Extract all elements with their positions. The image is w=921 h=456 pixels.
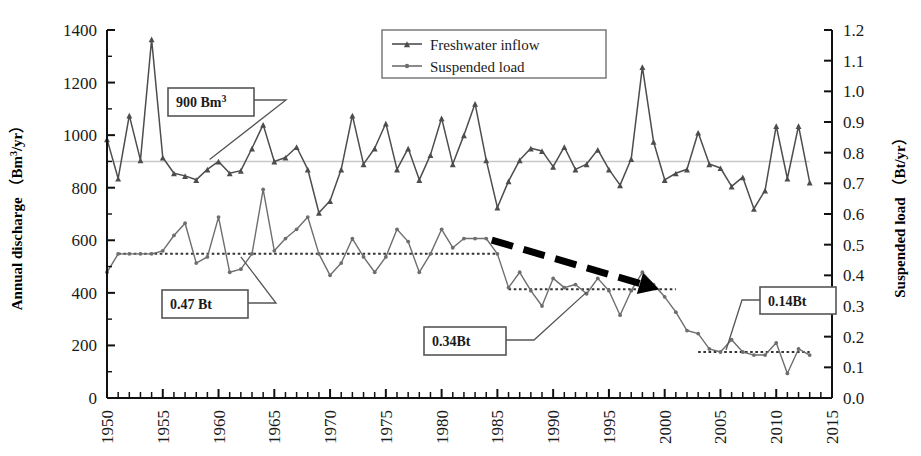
y2-axis-tick-label: 1.2 (843, 21, 864, 40)
y-axis-tick-label: 800 (72, 179, 98, 198)
legend-item-label: Suspended load (430, 59, 525, 75)
x-axis-tick-label: 2010 (767, 410, 786, 444)
data-point-marker (239, 267, 243, 271)
data-point-marker (183, 221, 187, 225)
callout-label: 0.14Bt (768, 294, 807, 309)
y-axis-tick-label: 1200 (63, 74, 97, 93)
right-axis-title: Suspended load （Bt/yr） (891, 130, 908, 298)
data-point-marker (663, 295, 667, 299)
y2-axis-tick-label: 0.8 (843, 144, 864, 163)
data-point-marker (373, 270, 377, 274)
data-point-marker (518, 270, 522, 274)
x-axis-tick-label: 2015 (823, 410, 842, 444)
data-point-marker (127, 252, 131, 256)
x-axis-tick-label: 2000 (656, 410, 675, 444)
x-axis-tick-label: 1980 (433, 410, 452, 444)
y2-axis-tick-label: 1.0 (843, 82, 864, 101)
data-point-marker (495, 252, 499, 256)
data-point-marker (306, 215, 310, 219)
data-point-marker (217, 215, 221, 219)
y-axis-tick-label: 400 (72, 284, 98, 303)
y-axis-tick-label: 200 (72, 336, 98, 355)
y2-axis-tick-label: 0.1 (843, 358, 864, 377)
data-point-marker (674, 310, 678, 314)
y-axis-tick-label: 1000 (63, 126, 97, 145)
data-point-marker (261, 188, 265, 192)
callout-label: 900 Bm3 (176, 93, 227, 110)
left-axis-title-tail: /yr） (8, 118, 25, 152)
data-point-marker (752, 353, 756, 357)
y2-axis-tick-label: 0.4 (843, 266, 865, 285)
data-point-marker (797, 347, 801, 351)
x-axis-tick-label: 1985 (488, 410, 507, 444)
data-point-marker (384, 255, 388, 259)
legend-item-label: Freshwater inflow (430, 37, 540, 53)
callout-label: 0.47 Bt (170, 297, 212, 312)
y2-axis-tick-label: 1.1 (843, 52, 864, 71)
data-point-marker (741, 350, 745, 354)
x-axis-tick-label: 1970 (321, 410, 340, 444)
data-point-marker (362, 255, 366, 259)
y2-axis-tick-label: 0.2 (843, 328, 864, 347)
data-point-marker (562, 286, 566, 290)
y2-axis-tick-label: 0.6 (843, 205, 864, 224)
data-point-marker (473, 237, 477, 241)
data-point-marker (529, 289, 533, 293)
data-point-marker (161, 249, 165, 253)
data-point-marker (596, 277, 600, 281)
y-axis-tick-label: 0 (89, 389, 98, 408)
data-point-marker (618, 313, 622, 317)
data-point-marker (707, 347, 711, 351)
data-point-marker (295, 227, 299, 231)
data-point-marker (116, 252, 120, 256)
data-point-marker (205, 255, 209, 259)
data-point-marker (317, 252, 321, 256)
data-point-marker (250, 252, 254, 256)
data-point-marker (607, 289, 611, 293)
data-point-marker (785, 372, 789, 376)
data-point-marker (440, 227, 444, 231)
y-axis-tick-label: 600 (72, 231, 98, 250)
data-point-marker (640, 270, 644, 274)
x-axis-tick-label: 1955 (154, 410, 173, 444)
data-point-marker (339, 261, 343, 265)
data-point-marker (272, 249, 276, 253)
x-axis-tick-label: 1975 (377, 410, 396, 444)
data-point-marker (429, 252, 433, 256)
data-point-marker (808, 353, 812, 357)
data-point-marker (629, 289, 633, 293)
data-point-marker (685, 329, 689, 333)
data-point-marker (719, 350, 723, 354)
x-axis-tick-label: 1995 (600, 410, 619, 444)
y2-axis-tick-label: 0.7 (843, 174, 865, 193)
callout-superscript: 3 (222, 93, 227, 104)
data-point-marker (228, 270, 232, 274)
data-point-marker (451, 246, 455, 250)
data-point-marker (507, 286, 511, 290)
data-point-marker (484, 237, 488, 241)
y2-axis-tick-label: 0.5 (843, 236, 864, 255)
data-point-marker (172, 234, 176, 238)
y2-axis-tick-label: 0.3 (843, 297, 864, 316)
data-point-marker (417, 270, 421, 274)
data-point-marker (139, 252, 143, 256)
data-point-marker (406, 240, 410, 244)
left-axis-title: Annual discharge （Bm3/yr） (8, 118, 25, 311)
data-point-marker (574, 283, 578, 287)
legend-marker-diamond-icon (405, 64, 409, 68)
data-point-marker (150, 252, 154, 256)
x-axis-tick-label: 1960 (210, 410, 229, 444)
data-point-marker (284, 237, 288, 241)
dual-axis-line-chart: 02004006008001000120014000.00.10.20.30.4… (0, 0, 921, 456)
x-axis-tick-label: 1950 (98, 410, 117, 444)
data-point-marker (696, 332, 700, 336)
data-point-marker (194, 261, 198, 265)
data-point-marker (774, 341, 778, 345)
data-point-marker (395, 227, 399, 231)
data-point-marker (462, 237, 466, 241)
data-point-marker (540, 304, 544, 308)
data-point-marker (551, 277, 555, 281)
y-axis-tick-label: 1400 (63, 21, 97, 40)
data-point-marker (763, 353, 767, 357)
callout-label: 0.34Bt (432, 334, 471, 349)
